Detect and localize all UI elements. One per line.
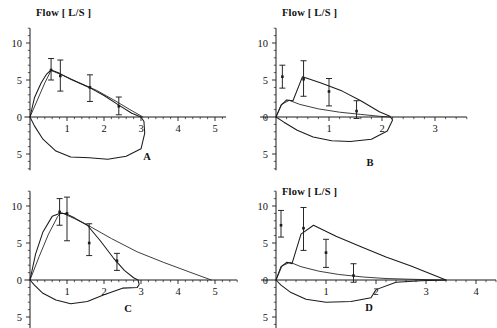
x-tick-label-A: 5 — [212, 123, 217, 134]
y-tick-label-A: 0 — [17, 112, 22, 123]
x-tick-label-D: 3 — [423, 286, 428, 297]
series-measured-mean-loop-D — [276, 225, 446, 302]
error-bar-B — [326, 79, 332, 106]
y-tick-label-A: 5 — [17, 75, 22, 86]
data-point-marker — [302, 78, 305, 81]
x-tick-label-C: 5 — [212, 286, 217, 297]
figure-container: 1234505105Flow [ L/S ]A12305105Flow [ L/… — [0, 0, 497, 328]
y-tick-label-D: 0 — [263, 275, 268, 286]
y-tick-label-C: 0 — [17, 275, 22, 286]
error-bar-D — [351, 264, 357, 283]
panel-letter-C: C — [124, 303, 132, 314]
series-measured-mean-loop-A — [30, 70, 145, 159]
error-bar-D — [323, 239, 329, 267]
four-panel-flow-loop-figure: 1234505105Flow [ L/S ]A12305105Flow [ L/… — [0, 0, 497, 328]
error-bar-D — [301, 207, 307, 250]
panel-D: 123405105Flow [ L/S ]D — [258, 186, 497, 328]
panel-title-A: Flow [ L/S ] — [36, 7, 91, 18]
x-tick-label-D: 1 — [323, 286, 328, 297]
y-tick-label-C: 5 — [17, 312, 22, 323]
y-tick-label-C: 10 — [12, 201, 23, 212]
series-measured-mean-loop-B — [276, 77, 393, 142]
x-tick-label-B: 3 — [432, 123, 437, 134]
y-tick-label-D: 5 — [263, 312, 268, 323]
data-point-marker — [355, 110, 358, 113]
x-tick-label-C: 1 — [64, 286, 69, 297]
y-tick-label-B: 10 — [258, 38, 269, 49]
error-bar-A — [48, 59, 54, 80]
error-bar-C — [86, 224, 92, 256]
data-point-marker — [50, 69, 53, 72]
x-tick-label-A: 1 — [64, 123, 69, 134]
data-point-marker — [89, 86, 92, 89]
data-point-marker — [118, 105, 121, 108]
y-tick-label-B: 5 — [263, 149, 268, 160]
y-tick-label-A: 10 — [12, 38, 23, 49]
data-point-marker — [88, 242, 91, 245]
y-tick-label-B: 0 — [263, 112, 268, 123]
error-bar-D — [278, 210, 284, 237]
data-point-marker — [59, 75, 62, 78]
data-point-marker — [66, 212, 69, 215]
error-bar-B — [279, 65, 285, 88]
y-tick-label-D: 5 — [263, 238, 268, 249]
data-point-marker — [328, 90, 331, 93]
x-tick-label-A: 3 — [138, 123, 143, 134]
panel-title-D: Flow [ L/S ] — [282, 186, 337, 197]
data-point-marker — [281, 75, 284, 78]
x-tick-label-D: 4 — [473, 286, 479, 297]
panel-A: 1234505105Flow [ L/S ]A — [12, 7, 227, 170]
panel-B: 12305105Flow [ L/S ]B — [258, 7, 467, 170]
series-model-fit-C — [30, 213, 211, 280]
y-tick-label-A: 5 — [17, 149, 22, 160]
data-point-marker — [302, 227, 305, 230]
error-bar-C — [114, 253, 120, 270]
error-bar-B — [354, 101, 360, 119]
x-tick-label-C: 3 — [138, 286, 143, 297]
x-tick-label-A: 2 — [101, 123, 106, 134]
panel-letter-A: A — [143, 151, 151, 162]
data-point-marker — [116, 259, 119, 262]
series-measured-mean-loop-C — [30, 213, 139, 303]
y-tick-label-C: 5 — [17, 238, 22, 249]
x-tick-label-C: 4 — [175, 286, 181, 297]
data-point-marker — [280, 224, 283, 227]
series-model-fit-D — [276, 262, 446, 280]
error-bar-C — [64, 197, 70, 241]
x-tick-label-B: 1 — [326, 123, 331, 134]
x-tick-label-D: 2 — [373, 286, 378, 297]
panel-title-B: Flow [ L/S ] — [282, 7, 337, 18]
panel-letter-B: B — [366, 157, 373, 168]
y-tick-label-D: 10 — [258, 201, 269, 212]
data-point-marker — [325, 251, 328, 254]
series-model-fit-B — [276, 100, 390, 117]
error-bar-C — [57, 199, 63, 226]
x-tick-label-A: 4 — [175, 123, 181, 134]
panel-letter-D: D — [365, 302, 373, 313]
data-point-marker — [352, 274, 355, 277]
y-tick-label-B: 5 — [263, 75, 268, 86]
panel-C: 1234505105C — [12, 191, 238, 328]
data-point-marker — [58, 211, 61, 214]
